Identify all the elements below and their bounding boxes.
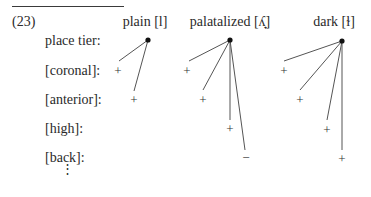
dark-anterior-value: + (296, 92, 303, 108)
plain-tree (119, 40, 148, 91)
plain-place-node (145, 37, 150, 42)
palatalized-anterior-value: + (199, 92, 206, 108)
dark-tree (284, 41, 342, 150)
plain-anterior-value: + (130, 92, 137, 108)
palatalized-place-node (227, 37, 232, 42)
dark-back-value: + (338, 151, 345, 167)
palatalized-high-value: + (226, 121, 233, 137)
plain-coronal-value: + (114, 63, 121, 79)
palatalized-tree (189, 40, 245, 150)
association-lines (0, 0, 371, 197)
dark-high-value: + (323, 122, 330, 138)
dark-coronal-value: + (280, 63, 287, 79)
palatalized-coronal-value: + (183, 63, 190, 79)
dark-place-node (339, 38, 344, 43)
palatalized-back-value: − (242, 150, 249, 166)
